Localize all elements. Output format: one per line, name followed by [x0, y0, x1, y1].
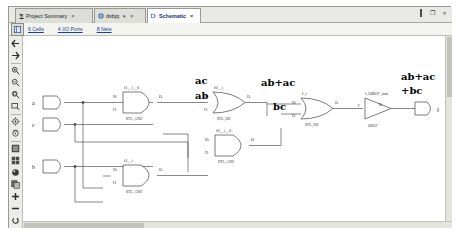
annotation-ab-plus-ac: ab+ac: [261, 77, 295, 88]
tab-label: Schematic: [159, 13, 186, 19]
copy-icon[interactable]: [10, 179, 21, 190]
net-c-branch: [75, 125, 188, 159]
schematic-icon: [151, 13, 157, 19]
forward-icon[interactable]: [10, 50, 21, 61]
info-cells[interactable]: 6 Cells: [28, 26, 44, 32]
zoom-out-icon[interactable]: [10, 77, 21, 88]
gate-pin-i1: I1: [113, 107, 117, 112]
gate-and-f1-i[interactable]: I0 I1 f1__i O RTL_AND: [113, 158, 208, 194]
toolbar-divider: [11, 63, 21, 64]
highlight-icon[interactable]: [10, 167, 21, 178]
tab-dsbjq[interactable]: dsbjq ▾ ×: [94, 8, 146, 23]
tab-schematic[interactable]: Schematic ×: [147, 8, 201, 23]
net-b-branch: [75, 167, 103, 203]
gate-instance-name: f1__i: [124, 158, 134, 163]
tab-label: dsbjq: [106, 13, 119, 19]
back-icon[interactable]: [10, 38, 21, 49]
gate-pin-i0: I0: [205, 137, 209, 142]
gate-type: RTL_OR: [217, 117, 231, 121]
gate-and-f1-i-0[interactable]: I0 I1 f1__i__0 O RTL_AND: [113, 85, 208, 121]
input-label-c: c: [32, 122, 35, 128]
gate-pin-o: O: [159, 167, 162, 172]
vertical-scrollbar-thumb[interactable]: [447, 37, 452, 97]
gate-type: RTL_AND: [218, 160, 235, 164]
schematic-viewer-screen: Σ Project Summary × dsbjq ▾ × Schematic …: [0, 0, 459, 239]
gate-type: RTL_AND: [126, 117, 143, 121]
gate-pin-i0: I0: [113, 94, 117, 99]
gate-type: OBUF: [368, 124, 378, 128]
gate-and-f0-i-0[interactable]: I0 I1 f0__i__0 O RTL_AND: [205, 128, 281, 164]
gate-pin-i1: I1: [113, 180, 117, 185]
close-icon[interactable]: ×: [71, 13, 74, 19]
annotation-ab: ab: [195, 90, 208, 101]
gate-pin-i1: I1: [205, 150, 209, 155]
gate-instance-name: f_i: [302, 91, 307, 96]
net-a-branch: [83, 103, 103, 189]
gate-pin-o: O: [159, 94, 162, 99]
zoom-area-icon[interactable]: [10, 101, 21, 112]
info-nets[interactable]: 8 Nets: [97, 26, 112, 32]
tab-project-summary[interactable]: Σ Project Summary ×: [15, 8, 93, 23]
select-grid-icon[interactable]: [10, 155, 21, 166]
annotation-ac: ac: [195, 75, 208, 86]
gate-or-f0-i[interactable]: I0 I1 f0__i O RTL_OR: [204, 85, 267, 121]
window-controls: ❐ ×: [417, 10, 448, 17]
horizontal-scrollbar[interactable]: [23, 221, 452, 228]
restore-icon[interactable]: ❐: [429, 10, 436, 17]
collapse-cone-icon[interactable]: [10, 128, 21, 139]
globe-icon: [98, 13, 104, 19]
gate-pin-i1: I1: [204, 107, 208, 112]
net-seg2: [163, 134, 188, 172]
close-icon[interactable]: ×: [130, 13, 133, 19]
gate-instance-name: f0__i__0: [216, 128, 231, 133]
tab-strip: Σ Project Summary × dsbjq ▾ × Schematic …: [9, 7, 452, 23]
gate-pin-o: O: [247, 94, 250, 99]
gate-pin-i: I: [358, 103, 360, 108]
gate-pin-i0: I0: [113, 167, 117, 172]
chevron-down-icon[interactable]: ▾: [123, 13, 126, 19]
output-label-f: f: [437, 107, 439, 113]
maximize-icon[interactable]: [417, 10, 424, 17]
expand-cone-icon[interactable]: [10, 116, 21, 127]
info-io-ports[interactable]: 4 I/O Ports: [58, 26, 83, 32]
tab-label: Project Summary: [26, 13, 67, 19]
annotation-out-line2: +bc: [401, 85, 422, 96]
schematic-toolbar: [9, 36, 23, 228]
annotation-bc: bc: [273, 101, 286, 112]
horizontal-scrollbar-thumb[interactable]: [24, 223, 144, 228]
gate-pin-o: O: [251, 137, 254, 142]
close-icon[interactable]: ×: [190, 13, 193, 19]
annotation-out-line1: ab+ac: [401, 71, 435, 82]
close-icon[interactable]: ×: [441, 10, 448, 17]
panel-toggle-icon[interactable]: [11, 23, 24, 36]
refresh-icon[interactable]: [10, 215, 21, 226]
gate-obuf[interactable]: I f_OBUF_inst O OBUF: [358, 91, 415, 128]
info-bar: 6 Cells 4 I/O Ports 8 Nets: [9, 23, 452, 36]
gate-instance-name: f0__i: [214, 85, 224, 90]
select-block-icon[interactable]: [10, 143, 21, 154]
input-label-a: a: [32, 100, 35, 106]
schematic-window: Σ Project Summary × dsbjq ▾ × Schematic …: [8, 6, 451, 228]
vertical-scrollbar[interactable]: [445, 36, 452, 221]
schematic-drawing: a c b: [23, 36, 445, 221]
sigma-icon: Σ: [19, 13, 24, 20]
remove-icon[interactable]: [10, 203, 21, 214]
add-icon[interactable]: [10, 191, 21, 202]
toolbar-divider: [11, 141, 21, 142]
gate-instance-name: f1__i__0: [124, 85, 139, 90]
output-port-f[interactable]: f: [415, 102, 439, 115]
schematic-canvas[interactable]: a c b: [23, 36, 445, 221]
zoom-in-icon[interactable]: [10, 65, 21, 76]
gate-pin-o: O: [335, 100, 338, 105]
gate-type: RTL_OR: [305, 123, 319, 127]
toolbar-divider: [11, 114, 21, 115]
zoom-fit-icon[interactable]: [10, 89, 21, 100]
gate-pin-o: O: [379, 102, 382, 107]
gate-instance-name: f_OBUF_inst: [365, 91, 389, 96]
gate-type: RTL_AND: [126, 190, 143, 194]
input-label-b: b: [32, 164, 35, 170]
